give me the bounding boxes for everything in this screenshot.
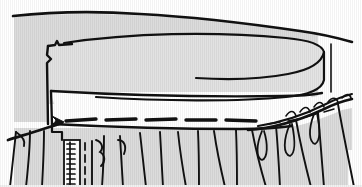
upper-panel-left-column <box>14 17 48 122</box>
waistband-cylinder-body <box>48 33 324 102</box>
illustration-canvas <box>0 0 362 187</box>
waistband-facing-left-edge <box>51 91 52 124</box>
basting-stitch-line <box>66 119 256 121</box>
sewing-illustration-figure: Waistband applied to gathered skirt <box>0 0 362 187</box>
